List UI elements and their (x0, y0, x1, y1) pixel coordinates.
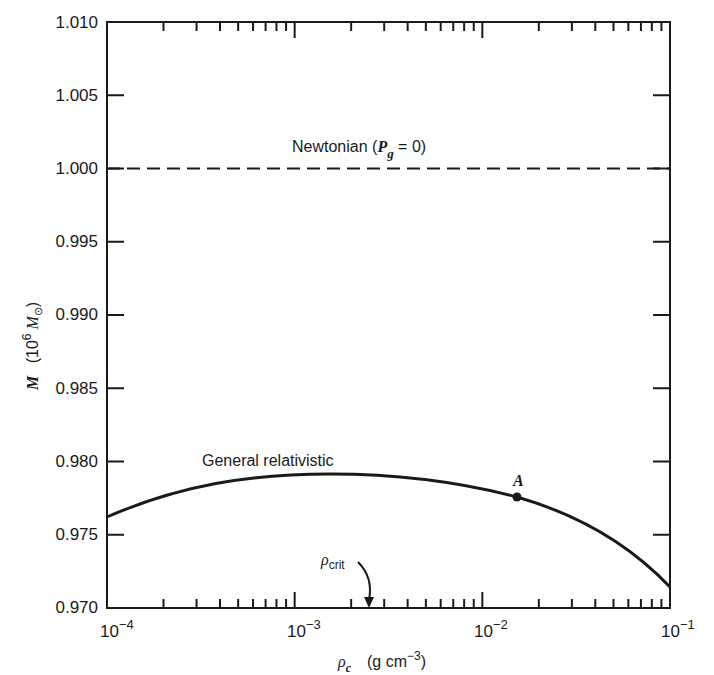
y-tick-label: 1.005 (55, 86, 98, 105)
point-a-marker (513, 493, 522, 502)
y-axis-labels: 1.010 1.005 1.000 0.995 0.990 0.985 0.98… (55, 13, 98, 617)
y-tick-label: 0.995 (55, 232, 98, 251)
general-relativistic-label: General relativistic (202, 452, 334, 469)
x-tick-label: 10−3 (287, 617, 321, 641)
y-tick-label: 0.985 (55, 379, 98, 398)
svg-text:M (106M⊙): M (106M⊙) (20, 302, 44, 391)
general-relativistic-curve (107, 474, 670, 587)
x-axis-title: ρc(g cm−3) (337, 649, 426, 675)
plot-frame (107, 22, 670, 608)
chart-canvas: 1.010 1.005 1.000 0.995 0.990 0.985 0.98… (0, 0, 714, 675)
y-tick-label: 1.010 (55, 13, 98, 32)
y-axis-ticks (107, 95, 670, 535)
rho-crit-arrow (358, 562, 370, 600)
point-a-label: A (512, 472, 524, 489)
arrow-head-icon (364, 597, 374, 608)
y-tick-label: 0.975 (55, 525, 98, 544)
x-axis-labels: 10−4 10−3 10−2 10−1 (100, 617, 695, 641)
rho-crit-label: ρcrit (320, 551, 345, 572)
y-tick-label: 0.970 (55, 598, 98, 617)
x-tick-label: 10−4 (100, 617, 134, 641)
y-tick-label: 0.980 (55, 452, 98, 471)
y-tick-label: 0.990 (55, 305, 98, 324)
x-tick-label: 10−2 (474, 617, 508, 641)
y-tick-label: 1.000 (55, 159, 98, 178)
x-tick-label: 10−1 (661, 617, 695, 641)
y-axis-title: M (106M⊙) (20, 302, 44, 391)
newtonian-label: Newtonian (Pg = 0) (292, 138, 426, 161)
x-axis-ticks (163, 22, 661, 608)
